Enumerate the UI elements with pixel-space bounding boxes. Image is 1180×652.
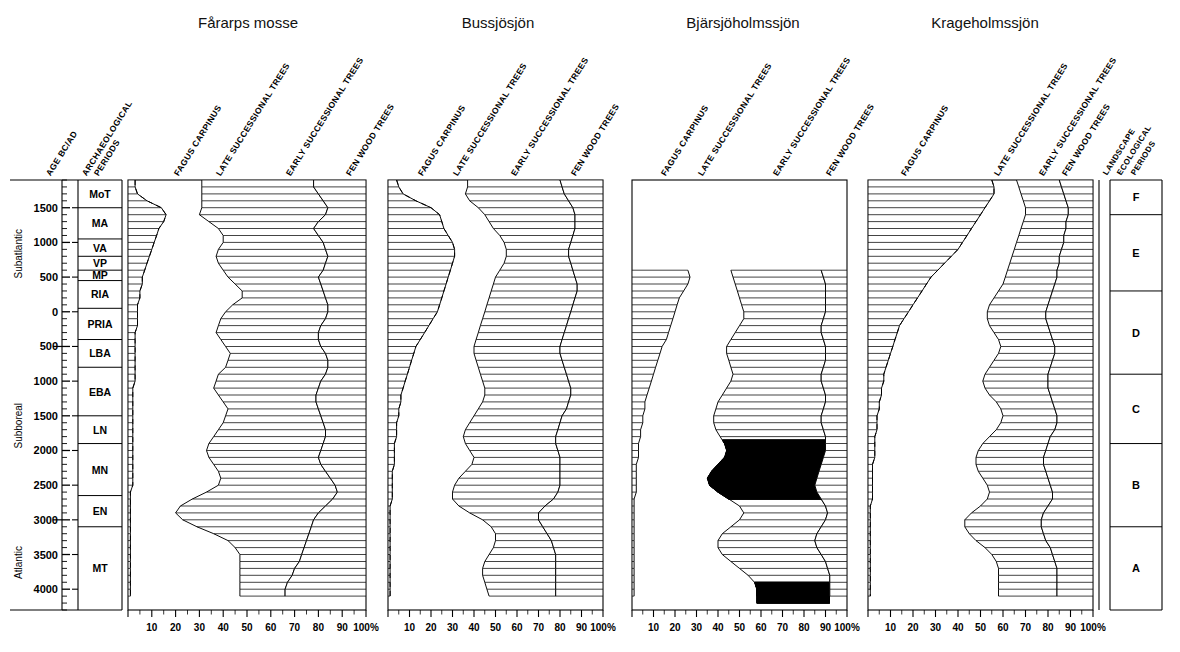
x-tick-label: 50 <box>734 622 745 633</box>
site-title-2: Bjärsjöholmssjön <box>686 14 799 31</box>
x-tick-label: 90 <box>820 622 831 633</box>
x-tick-label: 20 <box>425 622 436 633</box>
age-tick-label: 2000 <box>34 444 58 456</box>
x-tick-label: 60 <box>511 622 522 633</box>
band-fagus-carpinus-p1 <box>388 180 455 596</box>
arch-period-label: LBA <box>89 347 111 359</box>
x-tick-label: 50 <box>490 622 501 633</box>
x-tick-label: 100% <box>590 622 616 633</box>
x-tick-label: 80 <box>313 622 324 633</box>
lep-period-label: D <box>1132 327 1140 339</box>
x-tick-label: 40 <box>712 622 723 633</box>
lep-period-label: E <box>1132 247 1139 259</box>
age-tick-label: 3000 <box>34 514 58 526</box>
arch-period-label: MoT <box>89 188 111 200</box>
site-title-0: Fårarps mosse <box>198 14 298 31</box>
x-tick-label: 40 <box>468 622 479 633</box>
x-tick-label: 50 <box>975 622 986 633</box>
x-tick-label: 70 <box>777 622 788 633</box>
x-tick-label: 60 <box>997 622 1008 633</box>
age-tick-label: 500 <box>40 340 58 352</box>
diagram-canvas <box>0 0 1180 652</box>
age-tick-label: 0 <box>52 306 58 318</box>
age-tick-label: 1000 <box>34 236 58 248</box>
site-title-1: Bussjösjön <box>462 14 535 31</box>
arch-period-label: PRIA <box>87 318 112 330</box>
lep-period-label: A <box>1132 562 1140 574</box>
x-tick-label: 80 <box>798 622 809 633</box>
x-tick-label: 30 <box>447 622 458 633</box>
lep-period-label: F <box>1133 191 1140 203</box>
lep-period-label: B <box>1132 479 1140 491</box>
x-tick-label: 60 <box>265 622 276 633</box>
x-tick-label: 50 <box>241 622 252 633</box>
arch-period-label: EN <box>93 505 108 517</box>
arch-period-label: LN <box>93 424 107 436</box>
age-tick-label: 1500 <box>34 410 58 422</box>
x-tick-label: 20 <box>907 622 918 633</box>
x-tick-label: 60 <box>755 622 766 633</box>
x-tick-label: 10 <box>146 622 157 633</box>
arch-period-label: EBA <box>89 386 111 398</box>
x-tick-label: 90 <box>1065 622 1076 633</box>
x-tick-label: 100% <box>353 622 379 633</box>
x-tick-label: 40 <box>952 622 963 633</box>
arch-period-label: MN <box>92 464 108 476</box>
x-tick-label: 100% <box>1080 622 1106 633</box>
x-tick-label: 80 <box>554 622 565 633</box>
pollen-diagram-figure: Fårarps mosse Bussjösjön Bjärsjöholmssjö… <box>0 0 1180 652</box>
x-tick-label: 70 <box>533 622 544 633</box>
arch-period-label: MA <box>92 217 108 229</box>
x-tick-label: 100% <box>834 622 860 633</box>
chronozone-label: Subatlantic <box>13 243 24 279</box>
x-tick-label: 10 <box>404 622 415 633</box>
x-tick-label: 90 <box>576 622 587 633</box>
age-tick-label: 1500 <box>34 202 58 214</box>
arch-period-label: RIA <box>91 288 109 300</box>
arch-period-label: VP <box>93 257 107 269</box>
x-tick-label: 10 <box>648 622 659 633</box>
x-tick-label: 20 <box>170 622 181 633</box>
x-tick-label: 40 <box>218 622 229 633</box>
x-tick-label: 70 <box>1020 622 1031 633</box>
arch-period-label: VA <box>93 242 107 254</box>
x-tick-label: 10 <box>885 622 896 633</box>
chronozone-label: Atlantic <box>13 544 24 580</box>
site-title-3: Krageholmssjön <box>931 14 1039 31</box>
chronozone-label: Subboreal <box>13 413 24 449</box>
x-tick-label: 70 <box>289 622 300 633</box>
x-tick-label: 30 <box>194 622 205 633</box>
band-early-succ-p2 <box>707 270 830 596</box>
arch-period-label: MT <box>92 562 107 574</box>
age-tick-label: 2500 <box>34 479 58 491</box>
age-tick-label: 500 <box>40 271 58 283</box>
age-tick-label: 3500 <box>34 549 58 561</box>
age-tick-label: 1000 <box>34 375 58 387</box>
arch-period-label: MP <box>92 269 108 281</box>
band-fagus-carpinus-p0 <box>128 180 166 596</box>
x-tick-label: 30 <box>930 622 941 633</box>
x-tick-label: 30 <box>691 622 702 633</box>
x-tick-label: 80 <box>1042 622 1053 633</box>
x-tick-label: 90 <box>337 622 348 633</box>
lep-period-label: C <box>1132 403 1140 415</box>
band-fagus-carpinus-p2 <box>632 270 690 596</box>
age-tick-label: 4000 <box>34 583 58 595</box>
x-tick-label: 20 <box>669 622 680 633</box>
